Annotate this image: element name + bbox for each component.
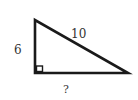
right-angle-marker <box>37 66 43 72</box>
hypotenuse-label: 10 <box>71 27 86 41</box>
horizontal-leg-label: ? <box>63 83 69 96</box>
vertical-leg-label: 6 <box>14 43 22 57</box>
triangle-diagram: 6 10 ? <box>0 0 138 100</box>
